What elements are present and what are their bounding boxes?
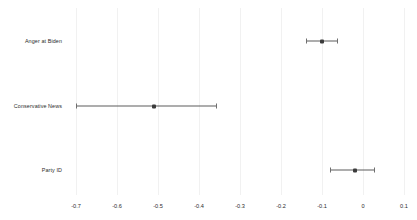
errorbar-cap-high [216,104,217,109]
gridline-x-4 [240,8,241,195]
errorbar-cap-low [330,168,331,173]
errorbar-party-id [330,166,375,175]
coefficient-plot: -0.7-0.6-0.5-0.4-0.3-0.2-0.100.1Anger at… [0,0,417,220]
errorbar-anger-at-biden [306,37,339,46]
gridline-x-5 [281,8,282,195]
point-estimate-marker [320,39,324,43]
x-axis-tick-label: 0 [361,203,364,209]
errorbar-cap-high [374,168,375,173]
x-axis-tick-label: -0.2 [276,203,286,209]
x-axis-tick-label: -0.7 [71,203,81,209]
x-axis-tick-label: -0.6 [112,203,122,209]
point-estimate-marker [152,104,156,108]
errorbar-line [76,106,217,107]
x-axis-tick-label: -0.1 [317,203,327,209]
point-estimate-marker [353,168,357,172]
errorbar-cap-low [306,39,307,44]
x-axis-tick-label: -0.3 [235,203,245,209]
category-label-party-id: Party ID [42,167,62,173]
gridline-x-8 [404,8,405,195]
errorbar-cap-low [76,104,77,109]
x-axis-tick-label: 0.1 [400,203,408,209]
errorbar-cap-high [337,39,338,44]
category-label-conservative-news: Conservative News [14,103,62,109]
category-label-anger-at-biden: Anger at Biden [25,38,62,44]
x-axis-tick-label: -0.4 [194,203,204,209]
errorbar-conservative-news [76,102,217,111]
x-axis-tick-label: -0.5 [153,203,163,209]
